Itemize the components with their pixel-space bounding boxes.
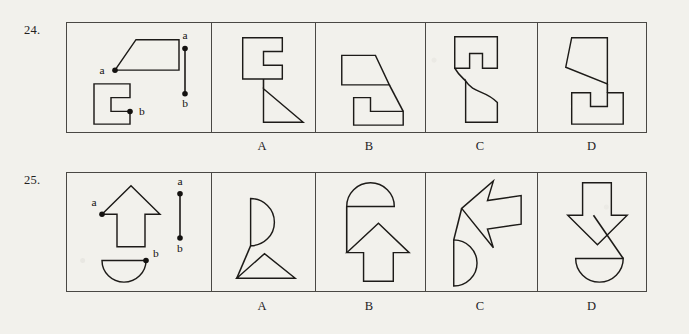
semicircle-with-point-b	[102, 261, 146, 283]
answer-grid: a b a b	[66, 172, 647, 292]
option-b-drawing	[316, 23, 425, 132]
question-number: 25.	[24, 174, 40, 187]
option-b-panel[interactable]	[315, 173, 425, 291]
shape-up-arrow	[347, 223, 409, 281]
point-b-label: b	[153, 247, 159, 259]
option-c-label: C	[424, 140, 536, 153]
option-a-panel[interactable]	[211, 23, 315, 132]
option-d-drawing	[538, 23, 648, 132]
option-a-label: A	[210, 300, 314, 313]
option-c-drawing	[426, 173, 537, 291]
shape-l-block	[354, 98, 404, 125]
connector-b-marker	[182, 91, 188, 96]
shape-curved-block	[466, 81, 498, 122]
connector-b-marker	[177, 235, 183, 241]
question-row-25: 25. a b a b	[0, 167, 689, 334]
option-a-panel[interactable]	[211, 173, 315, 291]
trapezoid-with-point-a	[115, 40, 179, 70]
shape-c-bracket	[243, 38, 283, 79]
connector-b-label: b	[177, 242, 183, 254]
join-segment	[454, 208, 462, 239]
answer-grid: a b a b	[66, 22, 647, 133]
point-a-marker	[112, 67, 118, 72]
shape-trapezoid	[342, 55, 390, 84]
option-c-drawing	[426, 23, 537, 132]
connector-b-label: b	[182, 98, 188, 110]
connector-a-marker	[182, 46, 188, 51]
stimulus-panel: a b a b	[67, 173, 211, 291]
connector-a-marker	[177, 191, 183, 197]
option-c-label: C	[424, 300, 536, 313]
option-c-panel[interactable]	[425, 173, 537, 291]
worksheet-page: 24. a b a b	[0, 0, 689, 334]
up-arrow-with-point-a	[102, 186, 160, 247]
join-segment	[593, 215, 623, 258]
join-segment	[455, 68, 466, 81]
option-b-drawing	[316, 173, 425, 291]
point-b-marker	[143, 258, 149, 264]
shape-slanted-quad	[566, 38, 608, 84]
point-a-label: a	[99, 64, 104, 76]
shape-notched-base	[572, 93, 624, 124]
shape-down-arrow	[568, 183, 627, 245]
option-a-drawing	[212, 23, 315, 132]
stimulus-drawing: a b a b	[67, 173, 211, 291]
option-b-label: B	[314, 140, 424, 153]
point-a-label: a	[91, 197, 96, 209]
question-row-24: 24. a b a b	[0, 0, 689, 167]
option-d-label: D	[536, 300, 647, 313]
shape-semicircle	[454, 240, 477, 286]
question-number: 24.	[24, 24, 40, 37]
option-b-panel[interactable]	[315, 23, 425, 132]
join-segment	[389, 85, 403, 112]
point-b-marker	[127, 109, 133, 114]
option-a-drawing	[212, 173, 315, 291]
shape-semicircle	[251, 199, 275, 246]
c-bracket-with-point-b	[94, 84, 130, 124]
option-d-label: D	[536, 140, 647, 153]
option-b-label: B	[314, 300, 424, 313]
option-c-panel[interactable]	[425, 23, 537, 132]
connector-a-label: a	[182, 29, 187, 41]
join-segment	[237, 246, 251, 278]
option-d-panel[interactable]	[537, 173, 648, 291]
shape-left-arrow	[462, 181, 521, 248]
option-d-panel[interactable]	[537, 23, 648, 132]
stimulus-drawing: a b a b	[67, 23, 211, 132]
point-a-marker	[99, 212, 105, 218]
connector-a-label: a	[177, 175, 182, 187]
point-b-label: b	[139, 105, 145, 117]
stimulus-panel: a b a b	[67, 23, 211, 132]
shape-triangle	[264, 89, 304, 122]
shape-semicircle	[576, 259, 624, 283]
option-a-label: A	[210, 140, 314, 153]
option-d-drawing	[538, 173, 648, 291]
shape-dome	[347, 183, 395, 207]
shape-notched-block	[455, 37, 498, 68]
